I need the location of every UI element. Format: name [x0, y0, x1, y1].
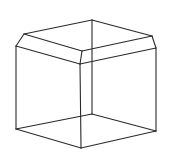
figure-canvas: [0, 0, 169, 165]
edge-vertical-front: [80, 64, 81, 148]
edge-chamfer-right-slant: [152, 36, 156, 48]
chamfered-cube-wireframe: [0, 0, 169, 165]
edge-chamfer-front-right: [80, 48, 156, 64]
edge-bottom-front-right: [81, 131, 156, 148]
edge-bottom-left-front: [16, 129, 81, 148]
edge-chamfer-left-front: [16, 46, 80, 64]
edge-top-back-right: [92, 20, 152, 36]
edge-chamfer-left-slant: [16, 34, 24, 46]
edge-top-left-front: [24, 34, 82, 51]
edge-top-back-left: [24, 20, 92, 34]
cube-edges: [16, 20, 156, 148]
edge-bottom-back-right: [92, 114, 156, 131]
edge-chamfer-front-slant: [80, 51, 82, 64]
